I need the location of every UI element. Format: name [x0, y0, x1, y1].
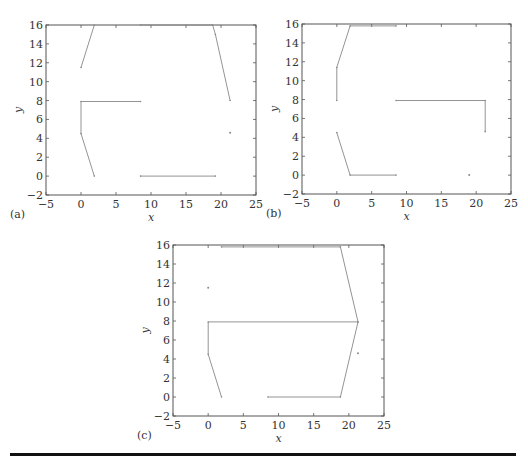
- vertex-marker: [221, 246, 223, 248]
- trajectory-line: [141, 25, 231, 101]
- x-tick-label: 15: [307, 419, 321, 432]
- y-axis-label: y: [12, 106, 25, 114]
- y-tick-label: −2: [283, 188, 299, 201]
- x-tick-label: 5: [368, 197, 375, 210]
- trajectory-line: [81, 102, 141, 177]
- vertex-marker: [336, 132, 338, 134]
- x-tick-label: 25: [377, 419, 391, 432]
- y-tick-label: 0: [163, 391, 170, 404]
- trajectory-line: [208, 322, 358, 397]
- vertex-marker: [484, 100, 486, 102]
- y-tick-label: 10: [156, 296, 170, 309]
- trajectory-line: [396, 101, 485, 132]
- vertex-marker: [340, 246, 342, 248]
- y-tick-label: 10: [29, 76, 43, 89]
- y-tick-label: 2: [36, 151, 43, 164]
- vertex-marker: [336, 67, 338, 69]
- vertex-marker: [215, 34, 217, 36]
- y-tick-label: 8: [292, 94, 299, 107]
- y-tick-label: 4: [36, 132, 43, 145]
- y-tick-label: 6: [36, 113, 43, 126]
- y-tick-label: 12: [156, 277, 170, 290]
- x-tick-label: 0: [78, 198, 85, 211]
- x-tick-label: 15: [179, 198, 193, 211]
- x-tick-label: 0: [333, 197, 340, 210]
- y-tick-label: 10: [285, 75, 299, 88]
- x-tick-label: 25: [504, 197, 518, 210]
- data-point: [468, 174, 470, 176]
- data-point: [357, 352, 359, 354]
- y-tick-label: 2: [292, 150, 299, 163]
- chart-panel-a: −50510152025−20246810121416xy(a): [10, 19, 263, 224]
- vertex-marker: [229, 100, 231, 102]
- vertex-marker: [140, 24, 142, 26]
- x-tick-label: 10: [272, 419, 286, 432]
- y-tick-label: 2: [163, 372, 170, 385]
- x-tick-label: 0: [205, 419, 212, 432]
- x-tick-label: 10: [144, 198, 158, 211]
- chart-panel-c: −50510152025−20246810121416xy(c): [137, 239, 391, 445]
- y-tick-label: −2: [27, 189, 43, 202]
- vertex-marker: [221, 396, 223, 398]
- vertex-marker: [349, 174, 351, 176]
- data-point: [207, 287, 209, 289]
- y-tick-label: 16: [29, 19, 43, 32]
- x-tick-label: 20: [469, 197, 483, 210]
- trajectory-line: [81, 25, 94, 68]
- y-axis-label: y: [139, 327, 152, 335]
- vertex-marker: [484, 131, 486, 133]
- panel-label: (c): [137, 429, 152, 442]
- y-tick-label: 12: [29, 57, 43, 70]
- figure: −50510152025−20246810121416xy(a)−5051015…: [0, 0, 528, 465]
- vertex-marker: [80, 133, 82, 135]
- plot-frame: [46, 25, 256, 195]
- panel-label: (b): [266, 207, 282, 220]
- plot-frame: [302, 24, 511, 194]
- y-tick-label: 0: [292, 169, 299, 182]
- vertex-marker: [80, 101, 82, 103]
- vertex-marker: [395, 25, 397, 27]
- data-point: [229, 132, 231, 134]
- vertex-marker: [140, 101, 142, 103]
- y-tick-label: 4: [163, 353, 170, 366]
- vertex-marker: [80, 67, 82, 69]
- vertex-marker: [336, 100, 338, 102]
- y-tick-label: 6: [163, 334, 170, 347]
- y-tick-label: 16: [285, 18, 299, 31]
- x-tick-label: 5: [113, 198, 120, 211]
- y-axis-label: y: [268, 105, 281, 113]
- x-tick-label: 25: [249, 198, 263, 211]
- y-tick-label: 4: [292, 131, 299, 144]
- x-axis-label: x: [275, 432, 282, 445]
- vertex-marker: [94, 24, 96, 26]
- y-tick-label: 8: [36, 95, 43, 108]
- y-tick-label: 6: [292, 112, 299, 125]
- trajectory-line: [337, 26, 396, 101]
- y-tick-label: 14: [29, 38, 43, 51]
- vertex-marker: [207, 321, 209, 323]
- y-tick-label: 16: [156, 239, 170, 252]
- x-tick-label: 20: [342, 419, 356, 432]
- y-tick-label: 8: [163, 315, 170, 328]
- x-tick-label: 15: [434, 197, 448, 210]
- y-tick-label: 0: [36, 170, 43, 183]
- vertex-marker: [212, 24, 214, 26]
- y-tick-label: −2: [154, 410, 170, 423]
- vertex-marker: [340, 396, 342, 398]
- chart-panel-b: −50510152025−20246810121416xy(b): [266, 18, 518, 223]
- panel-label: (a): [10, 208, 25, 221]
- vertex-marker: [267, 396, 269, 398]
- x-tick-label: 10: [400, 197, 414, 210]
- x-axis-label: x: [403, 210, 410, 223]
- plot-frame: [173, 245, 384, 416]
- vertex-marker: [395, 174, 397, 176]
- vertex-marker: [357, 321, 359, 323]
- x-axis-label: x: [148, 211, 155, 224]
- vertex-marker: [215, 175, 217, 177]
- y-tick-label: 12: [285, 56, 299, 69]
- vertex-marker: [140, 175, 142, 177]
- vertex-marker: [94, 175, 96, 177]
- x-tick-label: 5: [240, 419, 247, 432]
- vertex-marker: [395, 100, 397, 102]
- y-tick-label: 14: [156, 258, 170, 271]
